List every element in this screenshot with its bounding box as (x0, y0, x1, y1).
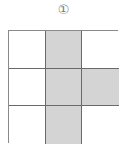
grid-cell-r2-c1 (9, 69, 46, 106)
grid-cell-r2-c3-shaded (82, 69, 119, 106)
grid-cell-r2-c2-shaded (46, 69, 82, 106)
grid-3x3 (8, 30, 118, 143)
grid-cell-r3-c2-shaded (46, 106, 82, 144)
figure-label: ① (0, 2, 127, 18)
grid-cell-r1-c1 (9, 31, 46, 69)
grid-cell-r1-c3 (82, 31, 119, 69)
grid-cell-r1-c2-shaded (46, 31, 82, 69)
grid-cell-r3-c3 (82, 106, 119, 144)
grid-cell-r3-c1 (9, 106, 46, 144)
